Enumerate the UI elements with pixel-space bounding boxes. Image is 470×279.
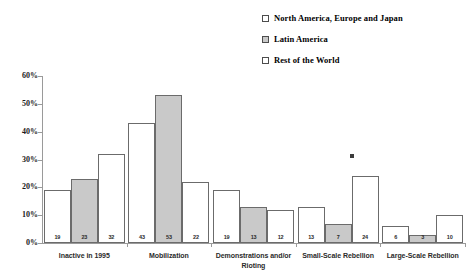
bar-value-label: 32 <box>99 234 124 240</box>
x-axis-category-label: Large-Scale Rebellion <box>380 251 465 261</box>
y-axis-tick-mark <box>38 215 42 216</box>
x-axis-category-label-line: Demonstrations and/or <box>211 251 296 261</box>
x-axis-tick-mark <box>465 243 466 247</box>
x-axis-category-label-line: Large-Scale Rebellion <box>380 251 465 261</box>
y-axis-tick-label: 40% <box>22 127 38 136</box>
bar: 7 <box>325 224 352 243</box>
scan-artifact-speck <box>350 154 354 158</box>
bar-value-label: 10 <box>437 234 462 240</box>
y-axis-tick-label: 10% <box>22 210 38 219</box>
bar-value-label: 3 <box>410 234 435 240</box>
bar: 10 <box>436 215 463 243</box>
y-axis-tick: 20% <box>0 187 48 188</box>
y-axis-tick-mark <box>38 132 42 133</box>
bar-value-label: 13 <box>241 234 266 240</box>
x-axis-category-label-line: Mobilization <box>127 251 212 261</box>
x-axis-category-label-line: Inactive in 1995 <box>42 251 127 261</box>
y-axis-tick-mark <box>38 104 42 105</box>
bar: 19 <box>44 190 71 243</box>
x-axis-category-label: Mobilization <box>127 251 212 261</box>
y-axis-tick-label: 20% <box>22 182 38 191</box>
y-axis-tick: 40% <box>0 132 48 133</box>
bar-value-label: 22 <box>183 234 208 240</box>
bar: 23 <box>71 179 98 243</box>
bar: 12 <box>267 210 294 243</box>
x-axis-tick-mark <box>211 243 212 247</box>
x-axis-tick-mark <box>380 243 381 247</box>
y-axis-tick-mark <box>38 160 42 161</box>
bar-value-label: 43 <box>129 234 154 240</box>
x-axis-tick-mark <box>296 243 297 247</box>
y-axis-tick-label: 30% <box>22 155 38 164</box>
x-axis-line <box>42 243 465 244</box>
x-axis-category-label: Inactive in 1995 <box>42 251 127 261</box>
x-axis-category-label: Small-Scale Rebellion <box>296 251 381 261</box>
y-axis-tick-label: 0% <box>26 238 38 247</box>
bar-chart-plot-area: 60%50%40%30%20%10%0% 1923324353221913121… <box>0 0 470 279</box>
bar-value-label: 53 <box>156 234 181 240</box>
bar: 24 <box>352 176 379 243</box>
bar: 53 <box>155 95 182 243</box>
x-axis-tick-mark <box>127 243 128 247</box>
y-axis-tick: 0% <box>0 243 48 244</box>
bar-value-label: 7 <box>326 234 351 240</box>
bar-value-label: 19 <box>214 234 239 240</box>
bar-value-label: 24 <box>353 234 378 240</box>
y-axis-tick-label: 60% <box>22 71 38 80</box>
bar-value-label: 23 <box>72 234 97 240</box>
bar: 22 <box>182 182 209 243</box>
x-axis-category-label-line: Rioting <box>211 261 296 271</box>
bar: 32 <box>98 154 125 243</box>
y-axis-tick: 30% <box>0 160 48 161</box>
bar: 13 <box>240 207 267 243</box>
y-axis-tick: 60% <box>0 76 48 77</box>
x-axis-category-label: Demonstrations and/orRioting <box>211 251 296 270</box>
bar-value-label: 19 <box>45 234 70 240</box>
y-axis-tick-mark <box>38 76 42 77</box>
y-axis-tick: 10% <box>0 215 48 216</box>
bar: 6 <box>382 226 409 243</box>
x-axis-category-label-line: Small-Scale Rebellion <box>296 251 381 261</box>
y-axis-tick-label: 50% <box>22 99 38 108</box>
y-axis-tick-mark <box>38 243 42 244</box>
bar: 13 <box>298 207 325 243</box>
bar: 3 <box>409 235 436 243</box>
bar-value-label: 12 <box>268 234 293 240</box>
bar-value-label: 6 <box>383 234 408 240</box>
y-axis-tick-mark <box>38 187 42 188</box>
bar: 19 <box>213 190 240 243</box>
y-axis-tick: 50% <box>0 104 48 105</box>
bar: 43 <box>128 123 155 243</box>
bar-value-label: 13 <box>299 234 324 240</box>
